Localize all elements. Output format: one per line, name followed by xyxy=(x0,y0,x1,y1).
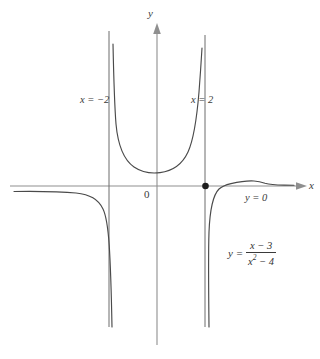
y-axis-arrowhead xyxy=(153,23,161,34)
function-equation-annotation: y = x − 3 x2 − 4 xyxy=(228,240,276,267)
equation-fraction-bar xyxy=(246,252,276,253)
x-intercept-point-marker xyxy=(202,183,209,190)
vertical-asymptote-left-label: x = −2 xyxy=(80,94,109,105)
x-axis-label: x xyxy=(309,179,314,191)
equation-numerator: x − 3 xyxy=(248,240,274,251)
curve-left-branch xyxy=(14,191,112,327)
equation-denominator-rest: − 4 xyxy=(256,256,274,267)
equation-lhs: y = xyxy=(228,247,243,259)
equation-fraction: x − 3 x2 − 4 xyxy=(246,240,276,267)
vertical-asymptote-right-label: x = 2 xyxy=(191,94,213,105)
origin-label: 0 xyxy=(144,188,150,200)
equation-denominator: x2 − 4 xyxy=(246,254,276,267)
horizontal-asymptote-label: y = 0 xyxy=(245,192,267,203)
y-axis-label: y xyxy=(148,7,153,19)
x-axis-arrowhead xyxy=(296,182,307,190)
function-graph-figure xyxy=(0,0,320,359)
